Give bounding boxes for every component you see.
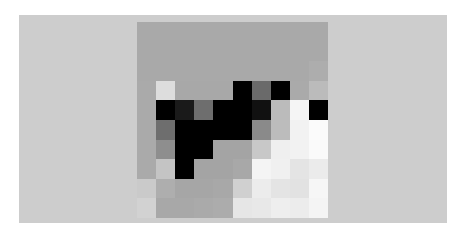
pixel-cell [156,61,175,81]
pixel-cell [156,140,175,160]
pixel-cell [252,42,271,62]
pixel-cell [175,100,194,120]
pixel-cell [290,81,309,101]
pixel-cell [309,81,328,101]
pixel-cell [290,198,309,218]
pixel-cell [271,120,290,140]
pixel-cell [271,159,290,179]
pixel-cell [233,100,252,120]
pixel-cell [233,81,252,101]
pixel-cell [156,81,175,101]
pixel-cell [233,198,252,218]
pixel-cell [252,159,271,179]
pixel-cell [271,81,290,101]
pixel-cell [137,159,156,179]
pixel-cell [175,22,194,42]
pixel-cell [271,61,290,81]
pixel-cell [194,179,213,199]
pixel-cell [137,61,156,81]
pixel-cell [213,120,232,140]
pixel-cell [213,179,232,199]
pixel-cell [271,22,290,42]
pixel-cell [233,159,252,179]
pixel-cell [175,120,194,140]
pixel-cell [252,120,271,140]
pixel-cell [290,100,309,120]
pixel-cell [175,140,194,160]
pixel-cell [252,81,271,101]
pixel-cell [233,179,252,199]
pixel-cell [309,61,328,81]
pixel-cell [156,42,175,62]
pixel-cell [137,120,156,140]
pixel-cell [233,140,252,160]
pixel-cell [137,22,156,42]
pixel-cell [309,120,328,140]
pixel-cell [137,198,156,218]
pixel-cell [175,61,194,81]
pixel-cell [213,159,232,179]
pixel-cell [309,22,328,42]
pixel-cell [137,179,156,199]
pixel-cell [309,100,328,120]
pixel-cell [137,100,156,120]
pixel-cell [252,198,271,218]
pixel-cell [175,81,194,101]
pixel-cell [290,42,309,62]
pixel-cell [290,61,309,81]
pixel-cell [252,179,271,199]
pixel-cell [194,159,213,179]
pixel-cell [233,42,252,62]
pixel-cell [233,22,252,42]
pixel-cell [213,100,232,120]
pixel-cell [271,100,290,120]
pixel-cell [156,100,175,120]
pixel-cell [290,179,309,199]
pixel-cell [271,140,290,160]
pixel-cell [213,198,232,218]
pixel-cell [137,140,156,160]
pixel-cell [175,159,194,179]
pixel-cell [290,120,309,140]
pixel-cell [175,42,194,62]
pixel-cell [252,100,271,120]
pixel-cell [213,22,232,42]
pixel-cell [309,179,328,199]
pixel-cell [175,179,194,199]
pixel-cell [194,81,213,101]
pixel-cell [309,159,328,179]
pixel-cell [271,198,290,218]
pixel-cell [213,140,232,160]
pixel-cell [194,100,213,120]
pixel-cell [213,81,232,101]
pixel-cell [194,198,213,218]
pixel-cell [137,42,156,62]
pixel-cell [271,42,290,62]
pixel-cell [252,140,271,160]
pixel-cell [252,22,271,42]
pixel-cell [194,42,213,62]
pixel-cell [309,198,328,218]
pixel-image-grid [137,22,328,218]
pixel-cell [194,22,213,42]
pixel-cell [194,120,213,140]
pixel-cell [290,22,309,42]
pixel-cell [137,81,156,101]
pixel-cell [290,159,309,179]
pixel-cell [156,120,175,140]
pixel-cell [194,61,213,81]
pixel-cell [156,198,175,218]
pixel-cell [156,22,175,42]
pixel-cell [290,140,309,160]
pixel-cell [252,61,271,81]
pixel-cell [194,140,213,160]
pixel-cell [213,42,232,62]
pixel-cell [156,159,175,179]
pixel-cell [271,179,290,199]
pixel-cell [233,120,252,140]
pixel-cell [175,198,194,218]
pixel-cell [213,61,232,81]
pixel-cell [309,42,328,62]
pixel-cell [309,140,328,160]
pixel-cell [156,179,175,199]
